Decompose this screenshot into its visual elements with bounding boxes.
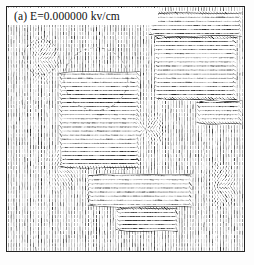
figure-panel: (a) E=0.000000 kv/cm [0,0,254,265]
plot-frame: (a) E=0.000000 kv/cm [6,6,245,252]
panel-label: (a) E=0.000000 kv/cm [12,9,122,23]
director-field-plot [7,7,244,251]
